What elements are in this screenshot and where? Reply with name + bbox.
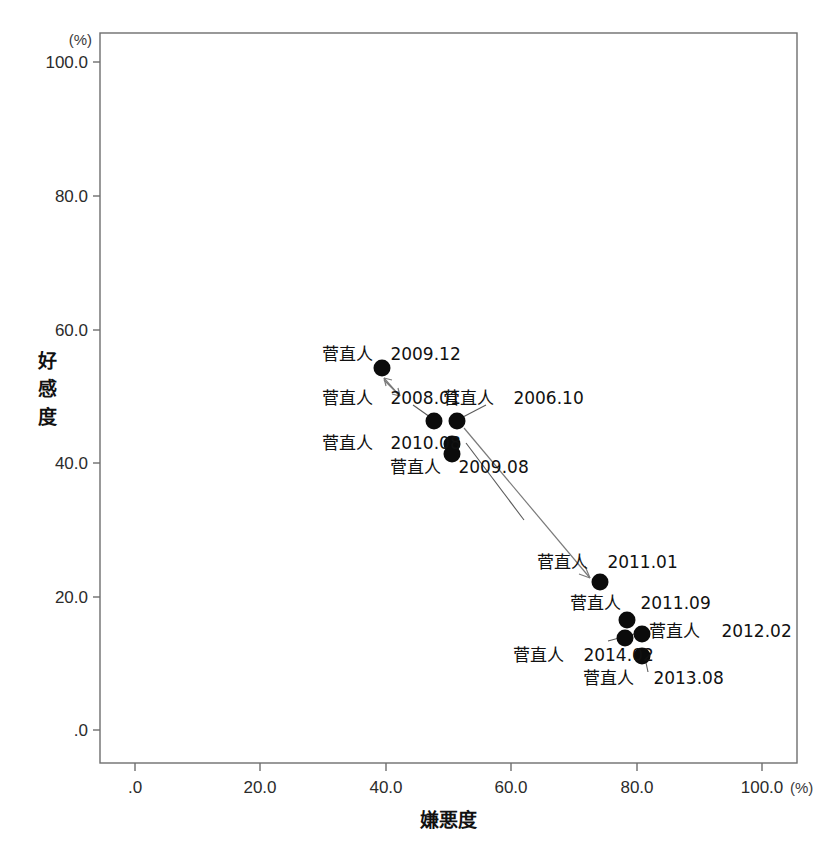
x-tick-label-60: 60.0 <box>494 778 527 797</box>
point-label-2011-09: 菅直人 2011.09 <box>570 593 711 613</box>
x-tick-label-0: .0 <box>128 778 142 797</box>
data-point-2011-09[interactable] <box>619 612 636 629</box>
point-label-2012-02-date: 2012.02 <box>721 621 791 641</box>
point-label-2009-12-name: 菅直人 <box>322 344 373 364</box>
point-label-2008-01-name: 菅直人 <box>322 388 373 408</box>
point-label-2013-08-date: 2013.08 <box>653 668 723 688</box>
y-tick-label-80: 80.0 <box>55 187 88 206</box>
point-label-2006-10: 菅直人 2006.10 <box>443 388 584 408</box>
point-label-2011-09-name: 菅直人 <box>570 593 621 613</box>
x-tick-label-20: 20.0 <box>243 778 276 797</box>
point-label-2010-08-name: 菅直人 <box>322 433 373 453</box>
chart-canvas: 100.0 80.0 60.0 40.0 20.0 .0 (%) .0 20.0… <box>0 0 830 842</box>
data-point-2011-01[interactable] <box>592 574 609 591</box>
y-axis-title-char-1: 好 <box>37 350 57 372</box>
point-label-2009-12: 菅直人 2009.12 <box>322 344 461 364</box>
y-axis-title-char-2: 感 <box>38 378 57 400</box>
point-label-2008-01: 菅直人 2008.01 <box>322 388 461 408</box>
point-label-2012-02-name: 菅直人 <box>649 621 700 641</box>
x-axis-title: 嫌悪度 <box>420 809 478 831</box>
point-label-2006-10-name: 菅直人 <box>443 388 494 408</box>
point-label-2010-08-date: 2010.08 <box>390 433 460 453</box>
point-label-2011-09-date: 2011.09 <box>640 593 710 613</box>
point-label-2011-01: 菅直人 2011.01 <box>537 552 678 572</box>
y-axis-title: 好 感 度 <box>37 350 64 428</box>
x-tick-label-100: 100.0 <box>741 778 784 797</box>
point-label-2013-08: 菅直人 2013.08 <box>583 668 724 688</box>
y-axis-unit: (%) <box>69 31 92 48</box>
point-label-2013-08-name: 菅直人 <box>583 668 634 688</box>
point-label-2010-08: 菅直人 2010.08 <box>322 433 461 453</box>
point-label-2011-01-date: 2011.01 <box>607 552 677 572</box>
x-axis-ticks: .0 20.0 40.0 60.0 80.0 100.0 <box>128 763 783 797</box>
x-tick-label-40: 40.0 <box>369 778 402 797</box>
x-tick-label-80: 80.0 <box>620 778 653 797</box>
data-point-2008-01[interactable] <box>426 413 443 430</box>
data-point-2006-10[interactable] <box>449 413 466 430</box>
point-label-2009-12-date: 2009.12 <box>390 344 460 364</box>
y-tick-label-0: .0 <box>74 721 88 740</box>
y-axis-title-char-3: 度 <box>38 406 58 428</box>
scatter-plot: 100.0 80.0 60.0 40.0 20.0 .0 (%) .0 20.0… <box>0 0 830 842</box>
y-tick-label-60: 60.0 <box>55 321 88 340</box>
point-label-2014-02-date: 2014.02 <box>583 645 653 665</box>
x-axis-unit: (%) <box>790 779 813 796</box>
point-label-2011-01-name: 菅直人 <box>537 552 588 572</box>
y-tick-label-100: 100.0 <box>45 53 88 72</box>
data-point-2014-02[interactable] <box>617 630 634 647</box>
y-tick-label-40: 40.0 <box>55 454 88 473</box>
point-label-2006-10-date: 2006.10 <box>513 388 583 408</box>
y-tick-label-20: 20.0 <box>55 588 88 607</box>
point-label-2014-02-name: 菅直人 <box>513 645 564 665</box>
point-label-2009-08: 菅直人 2009.08 <box>390 457 529 477</box>
point-label-2009-08-date: 2009.08 <box>458 457 528 477</box>
data-point-2012-02[interactable] <box>634 626 651 643</box>
point-label-2014-02: 菅直人 2014.02 <box>513 645 654 665</box>
point-label-2009-08-name: 菅直人 <box>390 457 441 477</box>
